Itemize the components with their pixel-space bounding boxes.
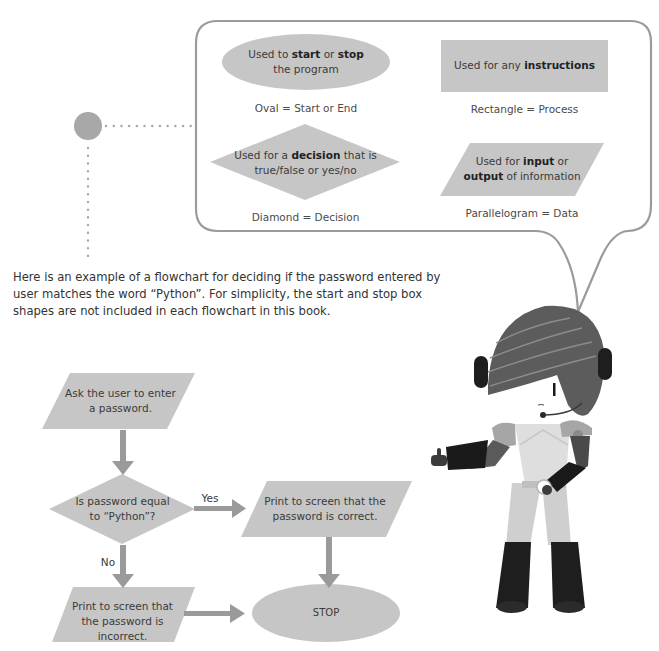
connector-dot xyxy=(74,112,102,140)
legend-diamond-text: Used for a decision that is true/false o… xyxy=(218,148,393,178)
flow-input-text: Ask the user to enter a password. xyxy=(58,386,183,416)
legend-diamond-caption: Diamond = Decision xyxy=(218,211,393,223)
legend-parallelogram-text: Used for input or output of information xyxy=(440,154,604,184)
flow-no-label: No xyxy=(96,555,120,570)
flow-stop-text: STOP xyxy=(286,605,366,620)
intro-paragraph: Here is an example of a flowchart for de… xyxy=(13,269,443,320)
flow-correct-text: Print to screen that the password is cor… xyxy=(250,494,400,524)
flow-incorrect-text: Print to screen that the password is inc… xyxy=(55,599,190,644)
legend-oval-text: Used to start or stop the program xyxy=(222,47,390,77)
robot-mascot-illustration xyxy=(431,306,612,613)
legend-oval-caption: Oval = Start or End xyxy=(222,102,390,114)
diagram-canvas xyxy=(0,0,659,651)
legend-rectangle-caption: Rectangle = Process xyxy=(441,103,608,115)
legend-parallelogram-caption: Parallelogram = Data xyxy=(440,207,604,219)
flow-yes-label: Yes xyxy=(195,491,225,506)
flow-decision-text: Is password equal to “Python”? xyxy=(60,494,185,524)
legend-rectangle-text: Used for any instructions xyxy=(441,58,608,73)
